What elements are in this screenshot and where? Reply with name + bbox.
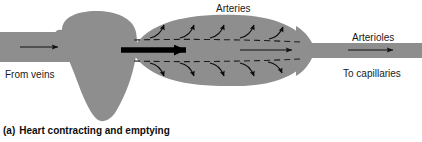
caption-text: Heart contracting and emptying xyxy=(19,125,170,136)
label-to-capillaries: To capillaries xyxy=(343,69,401,79)
vessel-body-group xyxy=(0,11,422,121)
label-arterioles: Arterioles xyxy=(352,33,394,43)
bulge-arteriole-junction xyxy=(296,26,322,76)
label-arteries: Arteries xyxy=(216,4,250,14)
figure-caption: (a)Heart contracting and emptying xyxy=(3,126,170,136)
caption-letter: (a) xyxy=(3,125,15,136)
label-from-veins: From veins xyxy=(5,70,54,80)
heart-chamber-shape xyxy=(55,11,137,121)
figure-container: Arteries Arterioles From veins To capill… xyxy=(0,0,422,142)
